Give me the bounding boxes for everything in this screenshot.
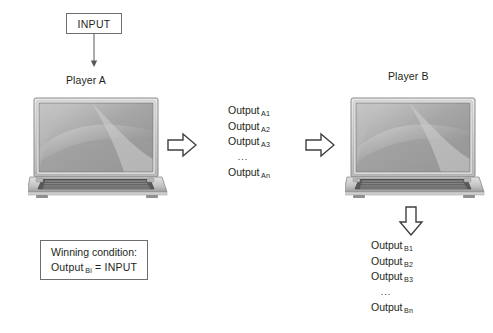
output-row-subscript: A2 (260, 125, 271, 134)
winning-condition-formula: OutputBi = INPUT (51, 260, 137, 275)
outputs-to-player-b-arrow (305, 132, 335, 158)
output-row-subscript: Bn (403, 306, 414, 315)
input-to-player-a-arrow (86, 34, 104, 68)
output-row: OutputB1 (371, 238, 413, 254)
output-row-text: Output (228, 166, 260, 178)
input-box: INPUT (66, 13, 122, 34)
winning-condition-box: Winning condition: OutputBi = INPUT (40, 240, 148, 280)
output-row: OutputB3 (371, 269, 413, 285)
output-row-subscript: B2 (403, 260, 414, 269)
output-row-subscript: A1 (260, 109, 271, 118)
winning-condition-formula-prefix: Output (51, 261, 84, 273)
output-row-text: Output (228, 120, 260, 132)
output-row-text: Output (371, 255, 403, 267)
output-row-subscript: A3 (260, 140, 271, 149)
player-a-to-outputs-arrow (167, 132, 197, 158)
player-a-label: Player A (66, 74, 106, 86)
output-list-b: OutputB1 OutputB2 OutputB3 ... OutputBn (371, 238, 413, 316)
output-row-text: Output (371, 239, 403, 251)
output-row-text: Output (371, 301, 403, 313)
output-row-text: Output (228, 104, 260, 116)
player-b-label: Player B (388, 70, 428, 82)
winning-condition-title: Winning condition: (51, 245, 137, 260)
winning-condition-formula-subscript: Bi (84, 266, 92, 275)
diagram-canvas: INPUT Player A (0, 0, 493, 333)
output-row: OutputA2 (228, 119, 270, 135)
output-row-subscript: B3 (403, 275, 414, 284)
output-row: OutputB2 (371, 254, 413, 270)
output-row: OutputA1 (228, 103, 270, 119)
laptop-icon-player-b (345, 97, 485, 199)
output-row-subscript: B1 (403, 244, 414, 253)
output-list-a: OutputA1 OutputA2 OutputA3 ... OutputAn (228, 103, 270, 181)
winning-condition-formula-suffix: = INPUT (95, 261, 137, 273)
laptop-icon-player-a (28, 97, 168, 199)
output-row-text: Output (371, 270, 403, 282)
output-row: OutputAn (228, 165, 270, 181)
output-row-ellipsis: ... (371, 285, 413, 301)
output-row-text: Output (228, 135, 260, 147)
output-row-ellipsis: ... (228, 150, 270, 166)
player-b-to-outputs-arrow (398, 206, 424, 236)
output-row: OutputBn (371, 300, 413, 316)
output-row: OutputA3 (228, 134, 270, 150)
input-box-label: INPUT (78, 18, 111, 30)
output-row-subscript: An (260, 171, 271, 180)
